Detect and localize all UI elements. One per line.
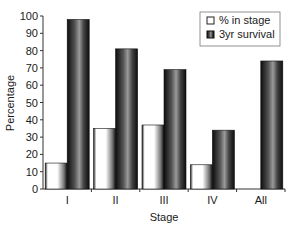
- legend: % in stage 3yr survival: [200, 12, 280, 46]
- bar-pct-in-stage: [142, 125, 164, 189]
- bar-pct-in-stage: [45, 163, 67, 189]
- y-tick-label: 90: [26, 27, 38, 39]
- bar-pct-in-stage: [190, 165, 212, 189]
- y-tick-label: 60: [26, 79, 38, 91]
- x-tick-label: III: [159, 194, 168, 206]
- y-tick-label: 50: [26, 97, 38, 109]
- y-axis-title: Percentage: [4, 75, 16, 131]
- bar-chart: 0102030405060708090100 IIIIIIIVAll Perce…: [0, 0, 290, 229]
- y-tick-label: 10: [26, 166, 38, 178]
- y-tick-label: 100: [20, 10, 38, 22]
- x-axis: IIIIIIIVAll: [43, 189, 285, 206]
- y-tick-label: 70: [26, 62, 38, 74]
- legend-label-pct-in-stage: % in stage: [219, 14, 270, 26]
- bar-3yr-survival: [261, 61, 283, 189]
- y-axis: 0102030405060708090100: [20, 10, 43, 195]
- y-tick-label: 0: [32, 183, 38, 195]
- legend-label-3yr-survival: 3yr survival: [219, 28, 275, 40]
- x-tick-label: I: [66, 194, 69, 206]
- legend-swatch-pct-in-stage: [207, 17, 214, 24]
- x-tick-label: All: [255, 194, 267, 206]
- y-tick-label: 20: [26, 148, 38, 160]
- bar-3yr-survival: [164, 70, 186, 189]
- bar-3yr-survival: [116, 49, 138, 189]
- y-tick-label: 40: [26, 114, 38, 126]
- x-tick-label: II: [113, 194, 119, 206]
- x-axis-title: Stage: [150, 211, 179, 223]
- legend-swatch-3yr-survival: [207, 31, 214, 38]
- bar-3yr-survival: [212, 130, 234, 189]
- y-tick-label: 30: [26, 131, 38, 143]
- y-tick-label: 80: [26, 45, 38, 57]
- x-tick-label: IV: [207, 194, 218, 206]
- bar-3yr-survival: [67, 19, 89, 189]
- bar-pct-in-stage: [94, 128, 116, 189]
